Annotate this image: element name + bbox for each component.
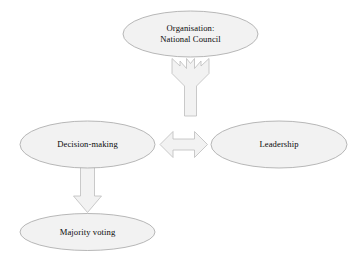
node-organisation[interactable] — [123, 11, 258, 57]
node-leadership[interactable] — [211, 121, 347, 168]
diagram-canvas: Organisation: National Council Decision-… — [0, 0, 360, 261]
forked-arrow — [172, 59, 209, 117]
node-majority-voting[interactable] — [20, 214, 155, 251]
horizontal-double-arrow — [160, 132, 208, 158]
node-decision-making[interactable] — [20, 121, 155, 168]
down-arrow — [74, 167, 102, 213]
diagram-graphics — [0, 0, 360, 261]
